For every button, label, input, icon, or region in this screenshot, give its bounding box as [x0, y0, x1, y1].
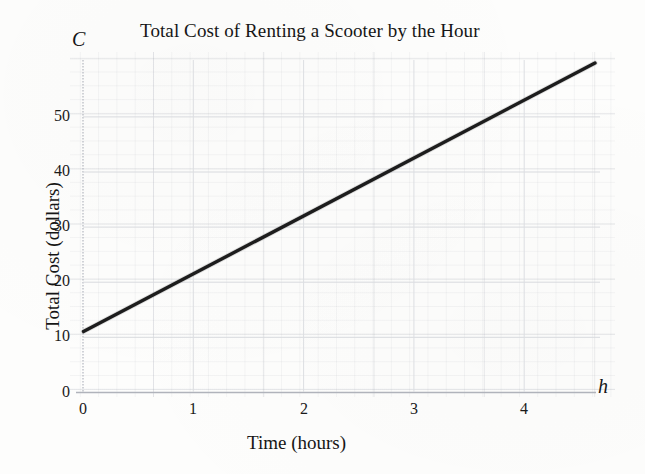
x-gridlines [193, 60, 524, 392]
data-line-ink-bleed [84, 63, 596, 332]
y-tick-label-0: 0 [36, 383, 70, 401]
x-tick-label-4: 4 [512, 400, 536, 418]
y-tick-label-50: 50 [36, 107, 70, 125]
plot-area [0, 0, 645, 474]
y-tick-label-40: 40 [36, 162, 70, 180]
y-tick-label-10: 10 [36, 327, 70, 345]
y-tick-label-30: 30 [36, 217, 70, 235]
y-gridlines [83, 117, 600, 337]
chart-title: Total Cost of Renting a Scooter by the H… [140, 20, 480, 42]
x-tick-label-2: 2 [292, 400, 316, 418]
y-axis-variable-label: C [72, 28, 85, 51]
y-tick-label-20: 20 [36, 272, 70, 290]
chart-figure: Total Cost of Renting a Scooter by the H… [0, 0, 645, 474]
x-tick-label-0: 0 [71, 400, 95, 418]
x-axis-variable-label: h [598, 375, 608, 398]
x-axis-title: Time (hours) [247, 432, 346, 454]
x-tick-label-1: 1 [181, 400, 205, 418]
x-tick-label-3: 3 [402, 400, 426, 418]
